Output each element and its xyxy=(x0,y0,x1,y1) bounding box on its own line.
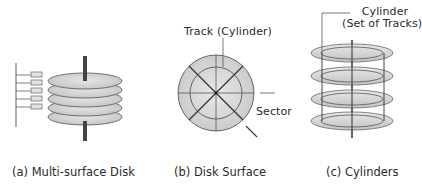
multi-surface-disk xyxy=(16,56,122,141)
spindle-top-visible xyxy=(83,56,87,81)
sector-leader-line xyxy=(246,126,257,137)
head-arm xyxy=(16,96,42,101)
caption-c: (c) Cylinders xyxy=(326,166,399,179)
sector-label: Sector xyxy=(256,106,292,118)
spindle-bottom xyxy=(83,121,87,141)
head-arm xyxy=(16,72,42,77)
head-arm xyxy=(16,80,42,85)
cylinder-label: Cylinder (Set of Tracks) xyxy=(350,6,420,30)
caption-b: (b) Disk Surface xyxy=(174,166,266,179)
caption-a: (a) Multi-surface Disk xyxy=(12,166,135,179)
head-assembly xyxy=(16,63,42,127)
track-label: Track (Cylinder) xyxy=(184,26,272,38)
cylinders xyxy=(311,13,393,138)
head-arm xyxy=(16,104,42,109)
surface-center xyxy=(215,92,218,95)
disk-surface xyxy=(178,38,275,137)
cylinder-label-line2: (Set of Tracks) xyxy=(342,18,420,30)
head-arm xyxy=(16,88,42,93)
